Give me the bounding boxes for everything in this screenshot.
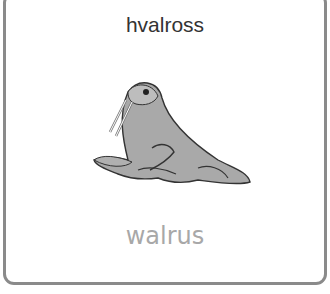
- translation-label: walrus: [6, 222, 324, 250]
- walrus-illustration: [88, 70, 254, 188]
- word-label: hvalross: [6, 13, 324, 37]
- flashcard[interactable]: hvalross walrus: [3, 0, 327, 285]
